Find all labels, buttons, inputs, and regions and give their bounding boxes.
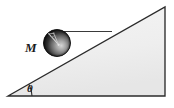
sphere-center-dot — [57, 44, 59, 46]
sphere-marking-stroke-4 — [51, 36, 57, 37]
mass-label: M — [24, 40, 37, 55]
angle-label: θ — [27, 82, 33, 94]
figure-canvas: M θ — [0, 0, 174, 108]
physics-figure-inclined-plane: M θ — [0, 0, 174, 108]
sphere-mass — [44, 30, 71, 57]
